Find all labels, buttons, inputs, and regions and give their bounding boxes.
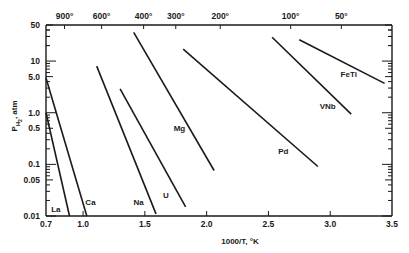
labels-group: LaCaNaUMgPdVNbFeTi: [51, 70, 357, 214]
y-tick-label: 0.05: [23, 175, 40, 185]
series-label-mg: Mg: [174, 124, 186, 133]
x-tick-label: 3.5: [386, 219, 398, 229]
series-label-na: Na: [134, 198, 145, 207]
y-tick-label: 0.5: [28, 123, 40, 133]
series-label-vnb: VNb: [320, 102, 336, 111]
x-tick-label: 1.0: [77, 219, 89, 229]
x-tick-label: 0.7: [40, 219, 52, 229]
x-tick-label: 2.0: [201, 219, 213, 229]
series-label-feti: FeTi: [341, 70, 357, 79]
top-tick-label: 50°: [335, 11, 348, 21]
chart-canvas: 0.71.01.52.02.53.03.5900°600°400°300°200…: [0, 0, 409, 253]
x-tick-label: 2.5: [263, 219, 275, 229]
series-line-ca: [46, 78, 87, 216]
top-tick-label: 200°: [211, 11, 229, 21]
series-label-pd: Pd: [278, 147, 288, 156]
top-tick-label: 300°: [167, 11, 185, 21]
series-line-pd: [183, 49, 318, 166]
y-tick-label: 10: [31, 56, 41, 66]
y-tick-label: 5.0: [28, 72, 40, 82]
x-axis-title: 1000/T, °K: [221, 237, 259, 246]
top-tick-label: 100°: [282, 11, 300, 21]
series-group: [46, 32, 385, 216]
series-line-na: [97, 66, 156, 214]
top-tick-label: 600°: [93, 11, 111, 21]
series-line-vnb: [272, 37, 351, 114]
series-label-u: U: [163, 191, 169, 200]
x-tick-label: 3.0: [324, 219, 336, 229]
top-tick-label: 900°: [56, 11, 74, 21]
y-tick-label: 1.0: [28, 108, 40, 118]
y-tick-label: 0.01: [23, 211, 40, 221]
y-tick-label: 0.1: [28, 159, 40, 169]
top-tick-label: 400°: [135, 11, 153, 21]
series-line-mg: [134, 32, 214, 170]
series-label-ca: Ca: [85, 198, 96, 207]
y-tick-label: 50: [31, 20, 41, 30]
hydride-pressure-chart: 0.71.01.52.02.53.03.5900°600°400°300°200…: [0, 0, 409, 253]
y-axis-title: PH2, atm: [10, 100, 23, 131]
x-tick-label: 1.5: [139, 219, 151, 229]
series-label-la: La: [51, 205, 61, 214]
